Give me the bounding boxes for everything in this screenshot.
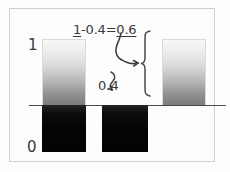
equation-operand-left: 1 <box>73 22 81 37</box>
equation-annotation: 1-0.4=0.6 <box>73 22 136 37</box>
y-axis-label-high: 1 <box>28 38 38 53</box>
y-axis-label-low: 0 <box>27 140 37 155</box>
figure-screenshot: 1 0 1-0.4=0.6 0.4 <box>0 0 230 172</box>
bar-1-above-axis <box>42 39 86 105</box>
bar-3-above-axis <box>162 39 206 105</box>
gap-value-annotation: 0.4 <box>98 79 119 92</box>
bar-2-below-axis <box>102 105 148 152</box>
figure-frame: 1 0 1-0.4=0.6 0.4 <box>9 8 215 162</box>
equation-equals: = <box>106 22 117 37</box>
equation-result: 0.6 <box>116 22 136 37</box>
bar-1-below-axis <box>42 105 86 152</box>
equation-operand-right: 0.4 <box>86 22 106 37</box>
